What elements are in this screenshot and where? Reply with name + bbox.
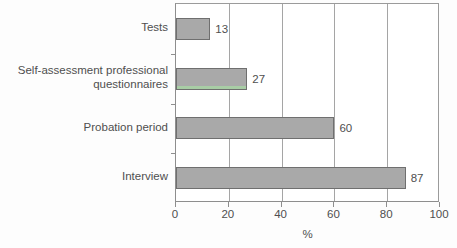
x-axis-tick-100 — [439, 202, 440, 207]
x-axis-tick-80 — [386, 202, 387, 207]
y-axis-tick — [171, 104, 176, 105]
bar-tests — [176, 18, 210, 40]
category-axis-labels: Tests Self-assessment professional quest… — [0, 3, 172, 202]
x-axis-label-80: 80 — [380, 208, 393, 220]
scan-artifact-band — [177, 86, 246, 89]
bar-interview — [176, 167, 406, 189]
x-axis-label-100: 100 — [429, 208, 448, 220]
bar-probation-period — [176, 117, 334, 139]
x-axis-title: % — [175, 228, 440, 240]
x-axis-tick-60 — [333, 202, 334, 207]
y-axis-tick — [171, 54, 176, 55]
category-label-interview: Interview — [0, 170, 168, 184]
category-label-self-assessment-professional-questionnaires: Self-assessment professional questionnai… — [0, 64, 168, 91]
x-axis-labels: 0 20 40 60 80 100 — [175, 208, 440, 224]
bar-self-assessment-professional-questionnaires — [176, 68, 247, 90]
plot-area: 13 27 60 87 — [175, 3, 439, 202]
x-axis-label-40: 40 — [274, 208, 287, 220]
bar-value-self-assessment-professional-questionnaires: 27 — [252, 68, 265, 90]
y-axis-tick — [171, 153, 176, 154]
x-axis-tick-0 — [175, 202, 176, 207]
x-axis-tick-40 — [281, 202, 282, 207]
bar-value-tests: 13 — [215, 18, 228, 40]
category-label-probation-period: Probation period — [0, 121, 168, 135]
bar-value-interview: 87 — [411, 167, 424, 189]
x-axis-label-0: 0 — [172, 208, 178, 220]
x-axis-label-20: 20 — [221, 208, 234, 220]
bar-value-probation-period: 60 — [339, 117, 352, 139]
x-axis-tick-20 — [228, 202, 229, 207]
bar-chart: Tests Self-assessment professional quest… — [0, 0, 457, 248]
x-axis-label-60: 60 — [327, 208, 340, 220]
category-label-tests: Tests — [0, 21, 168, 35]
